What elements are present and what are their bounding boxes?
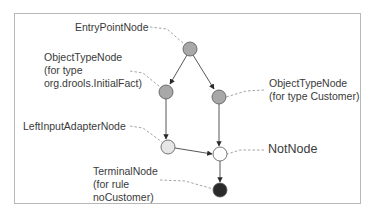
- label-line: noCustomer): [93, 191, 158, 204]
- leader-otn-customer: [226, 90, 264, 97]
- edge-entry-otn-initial: [170, 55, 187, 84]
- leader-terminal: [160, 180, 213, 189]
- leader-entry: [150, 27, 184, 44]
- label-line: (for type Customer): [269, 90, 359, 103]
- label-line: TerminalNode: [93, 165, 158, 178]
- label-line: LeftInputAdapterNode: [23, 120, 126, 133]
- terminal-node: [213, 183, 227, 197]
- not-node: [213, 147, 227, 161]
- label-line: (for rule: [93, 178, 158, 191]
- object-type-node-customer: [212, 90, 226, 104]
- left-input-adapter-node: [161, 140, 175, 154]
- label-object-type-node-initialfact: ObjectTypeNode (for type org.drools.Init…: [44, 51, 142, 90]
- rete-network-diagram: [0, 0, 374, 218]
- edges: [166, 55, 220, 182]
- label-line: EntryPointNode: [75, 21, 149, 34]
- nodes: [159, 42, 227, 197]
- entry-point-node: [183, 42, 197, 56]
- leader-lia: [130, 126, 162, 142]
- label-line: ObjectTypeNode: [44, 51, 142, 64]
- label-object-type-node-customer: ObjectTypeNode (for type Customer): [269, 77, 359, 103]
- leader-not: [227, 150, 264, 154]
- object-type-node-initialfact: [159, 85, 173, 99]
- label-line: org.drools.InitialFact): [44, 77, 142, 90]
- label-line: ObjectTypeNode: [269, 77, 359, 90]
- label-entry-point-node: EntryPointNode: [75, 21, 149, 34]
- edge-lia-not: [175, 148, 212, 154]
- label-terminal-node: TerminalNode (for rule noCustomer): [93, 165, 158, 204]
- label-not-node: NotNode: [268, 143, 317, 156]
- label-left-input-adapter-node: LeftInputAdapterNode: [23, 120, 126, 133]
- edge-entry-otn-customer: [193, 55, 214, 89]
- label-line: (for type: [44, 64, 142, 77]
- label-line: NotNode: [268, 143, 317, 156]
